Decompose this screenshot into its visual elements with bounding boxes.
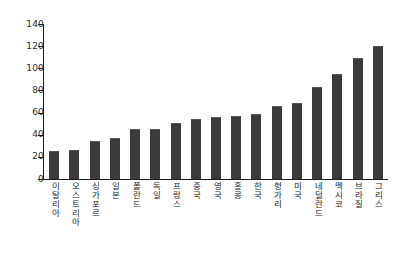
x-axis-category-label: 폴란드 xyxy=(130,182,140,209)
x-axis-category-label: 프랑스 xyxy=(171,182,181,209)
bar xyxy=(312,87,322,179)
x-axis-category-label: 영국 xyxy=(211,182,221,200)
bar xyxy=(130,129,140,179)
bar xyxy=(191,119,201,179)
bar xyxy=(110,138,120,179)
bar xyxy=(90,141,100,179)
bar xyxy=(332,74,342,179)
x-axis-category-label: 중국 xyxy=(191,182,201,200)
x-axis-category-label: 헝가리 xyxy=(272,182,282,209)
bar xyxy=(49,151,59,179)
bar xyxy=(231,116,241,179)
y-axis-ticks: 140120100806040200 xyxy=(0,0,44,253)
bar xyxy=(292,103,302,179)
x-axis-category-label: 네덜란드 xyxy=(312,182,322,218)
x-axis-category-labels: 이탈리아오스트리아싱가포르일본폴란드독일프랑스중국영국홍콩한국헝가리미국네덜란드… xyxy=(44,182,388,253)
x-axis-category-label: 그리스 xyxy=(373,182,383,209)
x-axis-category-label: 미국 xyxy=(292,182,302,200)
x-axis-category-label: 오스트리아 xyxy=(69,182,79,227)
x-axis-category-label: 멕시코 xyxy=(332,182,342,209)
x-axis-line xyxy=(43,179,388,180)
bar-chart-screenshot: 140120100806040200 이탈리아오스트리아싱가포르일본폴란드독일프… xyxy=(0,0,399,253)
x-axis-category-label: 한국 xyxy=(251,182,261,200)
x-axis-category-label: 일본 xyxy=(110,182,120,200)
plot-area xyxy=(44,24,388,179)
bar xyxy=(171,123,181,179)
x-axis-category-label: 싱가포르 xyxy=(90,182,100,218)
bar xyxy=(251,114,261,179)
x-axis-category-label: 독일 xyxy=(150,182,160,200)
bar xyxy=(373,46,383,179)
x-axis-category-label: 이탈리아 xyxy=(49,182,59,218)
x-axis-category-label: 홍콩 xyxy=(231,182,241,200)
bar xyxy=(272,106,282,179)
bar xyxy=(211,117,221,179)
bar xyxy=(353,58,363,179)
bar xyxy=(69,150,79,179)
x-axis-category-label: 브라질 xyxy=(353,182,363,209)
bar xyxy=(150,129,160,179)
